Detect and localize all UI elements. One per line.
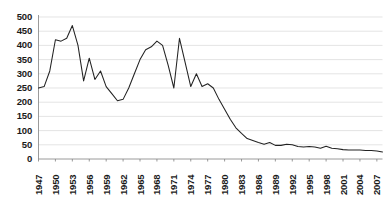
x-tick-label: 1953 (68, 175, 78, 195)
line-chart: 050100150200250300350400450500 194719501… (0, 0, 388, 202)
axis-lines (39, 15, 383, 159)
x-tick-label: 1977 (203, 175, 213, 195)
x-tick-label: 1962 (119, 175, 129, 195)
chart-canvas (0, 0, 388, 202)
x-tick-label: 1989 (271, 175, 281, 195)
y-tick-label: 0 (2, 154, 32, 164)
y-tick-label: 50 (2, 140, 32, 150)
y-tick-label: 150 (2, 111, 32, 121)
x-tick-label: 1995 (305, 175, 315, 195)
x-tick-label: 1965 (136, 175, 146, 195)
x-tick-label: 1992 (288, 175, 298, 195)
y-tick-label: 200 (2, 97, 32, 107)
y-tick-label: 350 (2, 55, 32, 65)
x-tick-label: 1971 (169, 175, 179, 195)
x-tick-label: 1959 (102, 175, 112, 195)
y-tick-label: 400 (2, 40, 32, 50)
x-tick-label: 1986 (254, 175, 264, 195)
x-tick-label: 2004 (355, 175, 365, 195)
x-tick-label: 1983 (237, 175, 247, 195)
y-tick-label: 300 (2, 69, 32, 79)
x-tick-label: 1974 (186, 175, 196, 195)
y-tick-label: 450 (2, 26, 32, 36)
gridlines (39, 17, 383, 145)
x-tick-label: 2001 (339, 175, 349, 195)
data-series-line (39, 26, 383, 152)
x-tick-label: 1968 (152, 175, 162, 195)
x-tick-label: 1956 (85, 175, 95, 195)
x-tick-label: 1950 (51, 175, 61, 195)
x-tick-marks (39, 159, 377, 162)
y-tick-label: 500 (2, 12, 32, 22)
x-tick-label: 1980 (220, 175, 230, 195)
x-tick-label: 1998 (322, 175, 332, 195)
y-tick-label: 250 (2, 83, 32, 93)
x-tick-label: 2007 (372, 175, 382, 195)
y-tick-label: 100 (2, 126, 32, 136)
x-tick-label: 1947 (34, 175, 44, 195)
